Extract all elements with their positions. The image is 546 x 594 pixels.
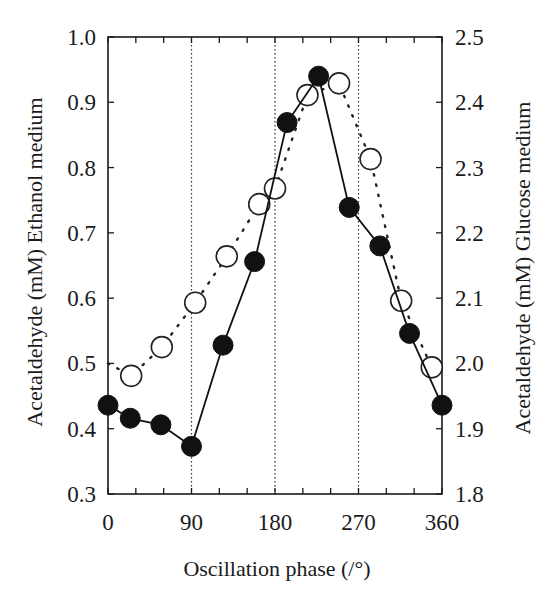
open-circle-marker <box>216 246 237 267</box>
vertical-gridlines <box>192 37 359 494</box>
y-left-tick-label: 1.0 <box>67 25 96 50</box>
open-circle-marker <box>360 149 381 170</box>
y-left-tick-label: 0.5 <box>67 351 96 376</box>
y-right-tick-label: 1.8 <box>455 482 484 507</box>
right-y-axis-title: Acetaldehyde (mM) Glucose medium <box>510 102 535 435</box>
y-left-tick-label: 0.4 <box>67 417 96 442</box>
chart: 090180270360 0.30.40.50.60.70.80.91.0 1.… <box>0 0 546 594</box>
filled-circle-marker <box>151 415 171 435</box>
y-left-tick-label: 0.8 <box>67 156 96 181</box>
filled-circle-marker <box>182 436 202 456</box>
y-right-tick-label: 2.3 <box>455 156 484 181</box>
right-y-axis-tick-labels: 1.81.92.02.12.22.32.42.5 <box>455 25 484 507</box>
y-right-tick-label: 2.2 <box>455 221 484 246</box>
left-y-axis-title: Acetaldehyde (mM) Ethanol medium <box>22 97 47 426</box>
y-right-tick-label: 2.4 <box>455 90 484 115</box>
x-tick-label: 360 <box>425 510 460 535</box>
open-circle-marker <box>265 178 286 199</box>
y-left-tick-label: 0.9 <box>67 90 96 115</box>
open-circle-marker <box>185 292 206 313</box>
x-axis-tick-labels: 090180270360 <box>102 510 459 535</box>
y-right-tick-label: 2.1 <box>455 286 484 311</box>
filled-circle-marker <box>120 408 140 428</box>
series-line <box>108 83 432 375</box>
y-left-tick-label: 0.7 <box>67 221 96 246</box>
x-tick-label: 90 <box>180 510 203 535</box>
y-right-tick-label: 2.5 <box>455 25 484 50</box>
filled-circle-marker <box>400 323 420 343</box>
chart-canvas: 090180270360 0.30.40.50.60.70.80.91.0 1.… <box>0 0 546 594</box>
y-left-tick-label: 0.3 <box>67 482 96 507</box>
y-right-tick-label: 2.0 <box>455 351 484 376</box>
filled-circle-marker <box>339 197 359 217</box>
x-tick-label: 180 <box>258 510 293 535</box>
open-circle-marker <box>151 337 172 358</box>
y-left-tick-label: 0.6 <box>67 286 96 311</box>
filled-circle-marker <box>277 113 297 133</box>
left-y-axis-tick-labels: 0.30.40.50.60.70.80.91.0 <box>67 25 96 507</box>
filled-circle-marker <box>213 335 233 355</box>
open-circle-marker <box>121 365 142 386</box>
x-tick-label: 0 <box>102 510 114 535</box>
filled-circle-marker <box>98 395 118 415</box>
filled-circle-marker <box>309 66 329 86</box>
x-tick-label: 270 <box>341 510 376 535</box>
filled-circle-marker <box>370 236 390 256</box>
filled-circle-marker <box>432 395 452 415</box>
filled-circle-marker <box>245 252 265 272</box>
open-circle-marker <box>329 73 350 94</box>
x-axis-title: Oscillation phase (/°) <box>183 556 370 581</box>
y-right-tick-label: 1.9 <box>455 417 484 442</box>
